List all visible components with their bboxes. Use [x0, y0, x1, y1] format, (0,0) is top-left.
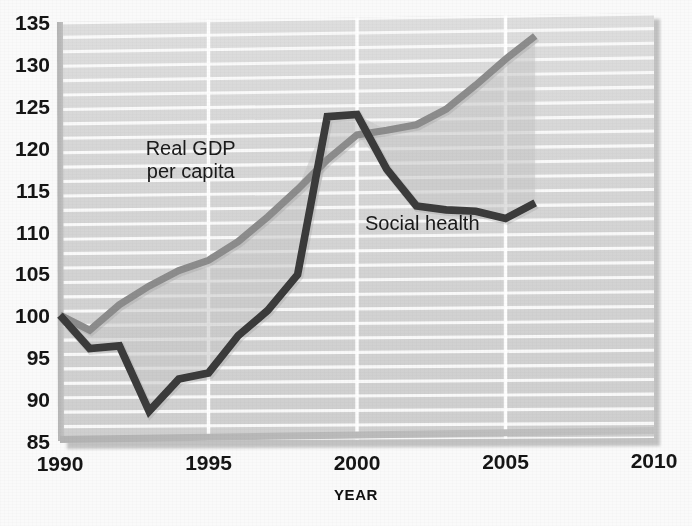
annotation-social-health: Social health — [365, 212, 480, 234]
y-axis-tick-label: 115 — [16, 179, 50, 202]
y-axis-line — [57, 22, 64, 441]
chart-container: 859095100105110115120125130135 199019952… — [0, 0, 692, 526]
x-axis-title: YEAR — [334, 486, 378, 503]
x-axis-tick-label: 2000 — [334, 451, 381, 474]
y-axis-tick-label: 110 — [16, 221, 50, 244]
page-root: 859095100105110115120125130135 199019952… — [0, 0, 692, 526]
y-axis-tick-label: 95 — [27, 346, 51, 369]
y-axis-tick-label: 130 — [15, 53, 50, 76]
y-axis-tick-label: 125 — [15, 95, 50, 118]
x-axis-tick-label: 1995 — [185, 451, 232, 474]
x-axis-tick-label: 2005 — [482, 450, 529, 473]
y-axis-tick-label: 100 — [15, 304, 50, 327]
y-axis-tick-label: 90 — [27, 388, 50, 411]
annotation-real-gdp-line1: Real GDP — [146, 137, 236, 159]
x-axis-tick-label: 2010 — [631, 449, 678, 472]
y-axis-tick-label: 120 — [15, 137, 50, 160]
annotation-real-gdp-line2: per capita — [147, 160, 236, 182]
x-axis-tick-label: 1990 — [37, 452, 84, 475]
y-axis-tick-label: 105 — [15, 262, 50, 285]
y-axis-tick-label: 85 — [27, 430, 51, 453]
line-chart: 859095100105110115120125130135 199019952… — [0, 0, 692, 526]
y-axis-tick-label: 135 — [15, 11, 50, 34]
